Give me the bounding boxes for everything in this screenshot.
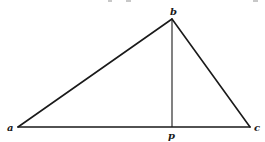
edge-bc (172, 19, 250, 127)
foot-label-p: p (168, 130, 175, 141)
vertex-label-a: a (7, 122, 13, 133)
triangle-diagram: a b c p (0, 0, 265, 142)
vertex-label-c: c (254, 122, 260, 133)
edge-ab (18, 19, 172, 127)
cropped-text-remnant (108, 0, 258, 2)
vertex-label-b: b (170, 6, 177, 17)
